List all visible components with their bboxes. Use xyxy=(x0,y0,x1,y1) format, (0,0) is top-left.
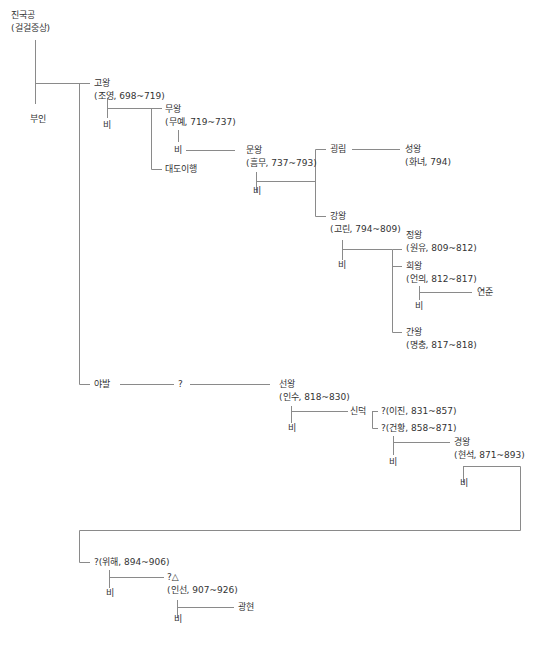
node-huiwang: 희왕 (언의, 812~817) xyxy=(406,260,477,286)
node-wihae: ?(위해, 894~906) xyxy=(94,556,169,569)
node-name: 진국공 xyxy=(11,9,50,22)
node-name: 광현 xyxy=(238,602,254,612)
node-name: 고왕 xyxy=(94,77,165,90)
node-detail: (화녀, 794) xyxy=(405,156,451,169)
node-inseon: ?△ (인선, 907~926) xyxy=(167,571,238,597)
node-jingukgong: 진국공 (걸걸중상) xyxy=(11,9,50,35)
node-detail: (명충, 817~818) xyxy=(406,339,477,352)
node-gwanghyeon: 광현 xyxy=(238,601,254,614)
node-detail: (무예, 719~737) xyxy=(165,116,236,129)
node-geonhwang-bi: 비 xyxy=(389,456,397,469)
node-yeonjun: 연준 xyxy=(477,286,493,299)
node-gowang-bi: 비 xyxy=(103,119,111,132)
node-name: 무왕 xyxy=(165,103,236,116)
node-name: 비 xyxy=(103,120,111,130)
node-name: 간왕 xyxy=(406,326,477,339)
node-name: ? xyxy=(178,379,183,389)
node-buin: 부인 xyxy=(30,113,46,126)
node-name: ?(건황, 858~871) xyxy=(381,423,456,433)
node-detail: (언의, 812~817) xyxy=(406,273,477,286)
node-name: 신덕 xyxy=(350,406,366,416)
node-name: 비 xyxy=(174,614,182,624)
node-ganwang: 간왕 (명충, 817~818) xyxy=(406,326,477,352)
node-ijin: ?(이진, 831~857) xyxy=(381,405,456,418)
node-muwang-bi: 비 xyxy=(174,144,182,157)
node-name: 비 xyxy=(253,186,261,196)
node-munwang-bi: 비 xyxy=(253,185,261,198)
node-detail: (원유, 809~812) xyxy=(406,242,477,255)
node-goengrim: 굉림 xyxy=(330,143,346,156)
node-name: ?△ xyxy=(167,571,238,584)
node-geonhwang: ?(건황, 858~871) xyxy=(381,422,456,435)
node-sindeok: 신덕 xyxy=(350,405,366,418)
node-name: 대도이행 xyxy=(165,164,197,174)
node-gyeongwang: 경왕 (현석, 871~893) xyxy=(454,436,525,462)
node-name: 성왕 xyxy=(405,143,451,156)
node-unknown: ? xyxy=(178,378,183,391)
node-gangwang-bi: 비 xyxy=(338,259,346,272)
node-yabal: 야발 xyxy=(94,378,110,391)
node-name: 비 xyxy=(389,457,397,467)
node-name: 야발 xyxy=(94,379,110,389)
node-munwang: 문왕 (흠무, 737~793) xyxy=(246,144,317,170)
node-name: 강왕 xyxy=(330,210,401,223)
node-name: 경왕 xyxy=(454,436,525,449)
connector-lines xyxy=(0,0,545,647)
node-name: 희왕 xyxy=(406,260,477,273)
node-detail: (인선, 907~926) xyxy=(167,584,238,597)
node-name: 비 xyxy=(415,301,423,311)
node-name: ?(이진, 831~857) xyxy=(381,406,456,416)
node-huiwang-bi: 비 xyxy=(415,300,423,313)
node-detail: (인수, 818~830) xyxy=(279,391,350,404)
node-detail: (고린, 794~809) xyxy=(330,223,401,236)
node-inseon-bi: 비 xyxy=(174,613,182,626)
node-wihae-bi: 비 xyxy=(106,587,114,600)
node-gyeongwang-bi: 비 xyxy=(460,477,468,490)
node-jeongwang: 정왕 (원유, 809~812) xyxy=(406,229,477,255)
node-seongwang: 성왕 (화녀, 794) xyxy=(405,143,451,169)
node-name: 비 xyxy=(106,588,114,598)
node-name: 굉림 xyxy=(330,144,346,154)
node-name: 비 xyxy=(288,423,296,433)
node-gowang: 고왕 (조영, 698~719) xyxy=(94,77,165,103)
node-muwang: 무왕 (무예, 719~737) xyxy=(165,103,236,129)
node-name: 정왕 xyxy=(406,229,477,242)
node-name: 연준 xyxy=(477,287,493,297)
node-name: 부인 xyxy=(30,114,46,124)
node-name: 비 xyxy=(460,478,468,488)
node-seonwang-bi: 비 xyxy=(288,422,296,435)
node-name: 문왕 xyxy=(246,144,317,157)
node-detail: (조영, 698~719) xyxy=(94,90,165,103)
node-daedoihaeng: 대도이행 xyxy=(165,163,197,176)
node-name: 비 xyxy=(338,260,346,270)
node-gangwang: 강왕 (고린, 794~809) xyxy=(330,210,401,236)
node-detail: (현석, 871~893) xyxy=(454,449,525,462)
node-name: 선왕 xyxy=(279,378,350,391)
node-detail: (걸걸중상) xyxy=(11,22,50,35)
node-detail: (흠무, 737~793) xyxy=(246,157,317,170)
node-name: ?(위해, 894~906) xyxy=(94,557,169,567)
node-name: 비 xyxy=(174,145,182,155)
node-seonwang: 선왕 (인수, 818~830) xyxy=(279,378,350,404)
